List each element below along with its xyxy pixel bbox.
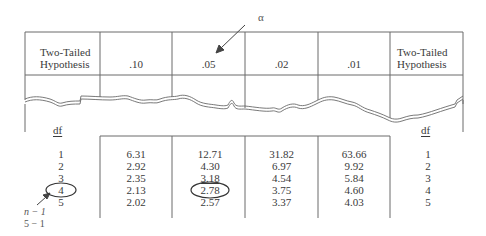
df-value: 3	[417, 172, 439, 184]
df-value: 4	[417, 184, 439, 196]
critical-value: 31.82	[245, 148, 318, 160]
right-header: Two-Tailed Hypothesis	[397, 46, 447, 70]
df-value: 3	[50, 172, 72, 184]
critical-value: 9.92	[318, 160, 390, 172]
critical-value: 6.31	[100, 148, 172, 160]
df-value: 1	[50, 148, 72, 160]
df-value: 2	[50, 160, 72, 172]
alpha-header-02: .02	[245, 58, 318, 70]
left-header-line-2: Hypothesis	[40, 58, 90, 70]
df-value: 2	[417, 160, 439, 172]
critical-value: 6.97	[245, 160, 318, 172]
critical-value: 63.66	[318, 148, 390, 160]
column-alpha-02: 31.82 6.97 4.54 3.75 3.37	[245, 148, 318, 208]
critical-value: 3.75	[245, 184, 318, 196]
right-header-line-2: Hypothesis	[397, 58, 447, 70]
critical-value: 2.13	[100, 184, 172, 196]
df-column-left: 1 2 3 4 5	[50, 148, 72, 208]
critical-value: 2.92	[100, 160, 172, 172]
df-value: 5	[417, 196, 439, 208]
left-header: Two-Tailed Hypothesis	[40, 46, 90, 70]
critical-value: 3.37	[245, 196, 318, 208]
critical-value: 5.84	[318, 172, 390, 184]
critical-value: 2.02	[100, 196, 172, 208]
df-label-right: df	[421, 124, 430, 136]
df-value: 5	[50, 196, 72, 208]
column-alpha-01: 63.66 9.92 5.84 4.60 4.03	[318, 148, 390, 208]
critical-value: 4.03	[318, 196, 390, 208]
df-value-highlighted: 4	[50, 184, 72, 196]
critical-value: 2.57	[174, 196, 246, 208]
alpha-header-05: .05	[172, 58, 245, 70]
critical-value-highlighted: 2.78	[174, 184, 246, 196]
critical-value: 3.18	[174, 172, 246, 184]
critical-value: 4.54	[245, 172, 318, 184]
right-header-line-1: Two-Tailed	[397, 46, 447, 58]
column-alpha-05: 12.71 4.30 3.18 2.78 2.57	[174, 148, 246, 208]
df-computation: 5 − 1	[24, 218, 46, 230]
df-label-left: df	[53, 124, 62, 136]
alpha-header-10: .10	[100, 58, 172, 70]
alpha-header-01: .01	[318, 58, 390, 70]
critical-value: 4.30	[174, 160, 246, 172]
critical-value: 2.35	[100, 172, 172, 184]
df-formula: n − 1	[24, 206, 46, 218]
alpha-label: α	[258, 11, 264, 23]
df-column-right: 1 2 3 4 5	[417, 148, 439, 208]
df-formula-annotation: n − 1 5 − 1	[24, 206, 46, 230]
df-value: 1	[417, 148, 439, 160]
column-alpha-10: 6.31 2.92 2.35 2.13 2.02	[100, 148, 172, 208]
alpha-arrow	[216, 25, 245, 53]
wavy-break	[25, 95, 463, 122]
critical-value: 12.71	[174, 148, 246, 160]
critical-value: 4.60	[318, 184, 390, 196]
left-header-line-1: Two-Tailed	[40, 46, 90, 58]
df-arrow	[37, 193, 50, 205]
